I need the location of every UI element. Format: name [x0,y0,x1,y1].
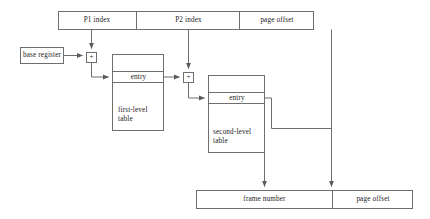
first-level-table-box [113,55,164,131]
physical-address-bar [197,191,413,209]
diagram-vector-layer [0,0,430,219]
connector-adder1-to-first-level-entry [92,63,109,78]
adder-2-label: + [183,72,194,82]
virtual-address-bar [59,12,314,30]
second-level-table-box [209,76,265,153]
adder-1-label: + [86,52,97,62]
base-register-box [21,48,64,64]
connector-adder2-to-second-level-entry [189,83,205,99]
diagram-canvas: P1 index P2 index page offset base regis… [0,0,430,219]
connector-second-level-entry-branch [265,98,332,129]
